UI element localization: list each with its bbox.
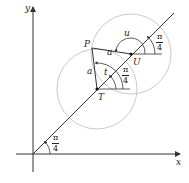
angle-arc-t-pi4	[110, 76, 116, 89]
segment-pt	[92, 48, 97, 89]
fraction-pi-over-4-t: π 4	[122, 66, 129, 85]
angle-arc-t	[96, 63, 123, 89]
point-u	[129, 52, 132, 55]
point-t-label: T	[98, 93, 104, 102]
angle-t-label: t	[104, 68, 108, 77]
angle-arc-origin	[45, 142, 50, 154]
angle-u-label: u	[124, 29, 130, 38]
point-t	[95, 87, 98, 90]
angle-arc-u-pi4	[148, 37, 155, 54]
segment-pt-label: a	[87, 67, 92, 76]
point-u-label: U	[133, 58, 141, 67]
y-axis-label: y	[25, 4, 30, 13]
fraction-pi-over-4-origin: π 4	[52, 134, 59, 153]
segment-pu-label: a	[107, 48, 112, 57]
x-axis-label: x	[176, 158, 181, 167]
diagram-canvas	[0, 0, 189, 183]
fraction-pi-over-4-u: π 4	[156, 33, 163, 52]
point-p-label: P	[84, 40, 90, 49]
